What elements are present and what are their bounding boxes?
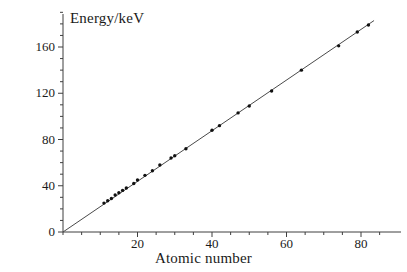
- y-tick-label: 120: [25, 85, 55, 101]
- y-axis-ticks: [58, 12, 63, 232]
- data-point-marker: [110, 197, 113, 200]
- data-point-marker: [337, 44, 340, 47]
- data-point-marker: [356, 30, 359, 33]
- x-tick-label: 20: [123, 236, 153, 252]
- data-point-marker: [151, 169, 154, 172]
- data-point-marker: [169, 156, 172, 159]
- axes: [63, 14, 401, 232]
- data-point-marker: [117, 191, 120, 194]
- data-point-marker: [184, 147, 187, 150]
- data-point-marker: [121, 189, 124, 192]
- data-point-marker: [132, 182, 135, 185]
- data-point-marker: [106, 199, 109, 202]
- data-point-marker: [143, 174, 146, 177]
- y-tick-label: 160: [25, 39, 55, 55]
- y-axis-title: Energy/keV: [70, 10, 144, 27]
- data-point-marker: [218, 124, 221, 127]
- data-point-marker: [210, 129, 213, 132]
- y-tick-label: 0: [25, 224, 55, 240]
- x-tick-label: 80: [346, 236, 376, 252]
- y-tick-label: 80: [25, 132, 55, 148]
- data-point-marker: [270, 89, 273, 92]
- y-tick-label: 40: [25, 178, 55, 194]
- data-point-marker: [136, 178, 139, 181]
- x-axis-title: Atomic number: [0, 250, 407, 267]
- data-point-marker: [102, 201, 105, 204]
- data-point-marker: [367, 23, 370, 26]
- data-point-marker: [248, 104, 251, 107]
- chart-figure: Energy/keV Atomic number 04080120160 204…: [0, 0, 407, 272]
- x-tick-label: 40: [197, 236, 227, 252]
- plot-canvas: [0, 0, 407, 272]
- data-point-marker: [158, 163, 161, 166]
- data-point-marker: [300, 68, 303, 71]
- x-tick-label: 60: [272, 236, 302, 252]
- data-point-marker: [125, 186, 128, 189]
- data-point-marker: [173, 154, 176, 157]
- data-point-marker: [236, 111, 239, 114]
- data-point-marker: [113, 193, 116, 196]
